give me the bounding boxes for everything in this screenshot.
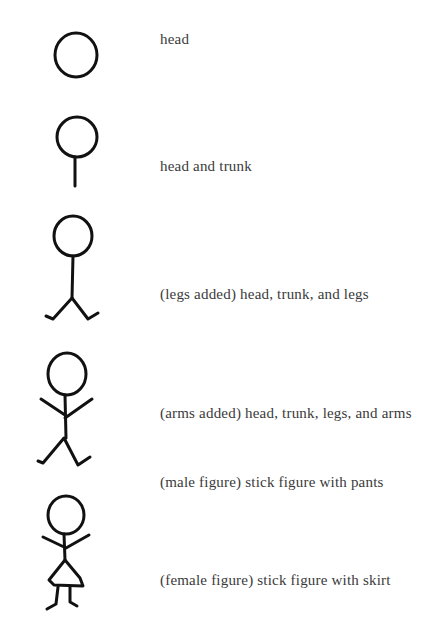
caption-head-trunk: head and trunk <box>160 158 252 175</box>
caption-male: (male figure) stick figure with pants <box>160 474 384 491</box>
figure-head <box>55 33 97 77</box>
caption-head: head <box>160 31 189 48</box>
caption-arms: (arms added) head, trunk, legs, and arms <box>160 405 412 422</box>
caption-legs: (legs added) head, trunk, and legs <box>160 286 369 303</box>
figure-arms <box>38 353 92 465</box>
stick-figure-diagram <box>0 0 430 641</box>
caption-female: (female figure) stick figure with skirt <box>160 572 391 589</box>
figure-female <box>43 496 89 609</box>
figure-legs <box>46 216 98 319</box>
figure-head-trunk <box>57 117 97 186</box>
